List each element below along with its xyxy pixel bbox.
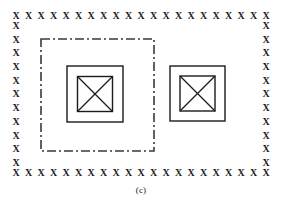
boundary-x-bottom-marker: X <box>12 168 20 178</box>
boundary-x-top-marker: X <box>175 11 183 21</box>
boundary-x-top-marker: X <box>62 11 70 21</box>
boundary-x-bottom-marker: X <box>175 168 183 178</box>
boundary-x-left-marker: X <box>12 35 20 45</box>
boundary-x-top-marker: X <box>25 11 33 21</box>
boundary-x-top-marker: X <box>200 11 208 21</box>
boundary-x-left-marker: X <box>12 62 20 72</box>
boundary-x-top-marker: X <box>250 11 258 21</box>
boundary-x-bottom-marker: X <box>50 168 58 178</box>
boundary-x-bottom-marker: X <box>75 168 83 178</box>
boundary-x-top-marker: X <box>225 11 233 21</box>
right-square-group <box>169 65 226 122</box>
boundary-x-right-marker: X <box>262 89 270 99</box>
boundary-x-bottom-marker: X <box>112 168 120 178</box>
boundary-x-top-marker: X <box>137 11 145 21</box>
boundary-x-bottom-marker: X <box>187 168 195 178</box>
boundary-x-bottom-marker: X <box>125 168 133 178</box>
boundary-x-right-marker: X <box>262 76 270 86</box>
boundary-x-bottom-marker: X <box>250 168 258 178</box>
boundary-x-top-marker: X <box>212 11 220 21</box>
boundary-x-top-marker: X <box>150 11 158 21</box>
boundary-x-top-marker: X <box>37 11 45 21</box>
boundary-x-top-marker: X <box>187 11 195 21</box>
boundary-x-top-marker: X <box>237 11 245 21</box>
boundary-x-bottom-marker: X <box>225 168 233 178</box>
boundary-x-bottom-marker: X <box>200 168 208 178</box>
boundary-x-col-right: XXXXXXXXXXX <box>262 21 270 168</box>
boundary-x-left-marker: X <box>12 144 20 154</box>
boundary-x-left-marker: X <box>12 89 20 99</box>
boundary-x-left-marker: X <box>12 21 20 31</box>
left-square-group <box>66 65 124 123</box>
boundary-x-bottom-marker: X <box>237 168 245 178</box>
boundary-x-left-marker: X <box>12 158 20 168</box>
boundary-x-bottom-marker: X <box>100 168 108 178</box>
boundary-x-row-top: XXXXXXXXXXXXXXXXXXXXX <box>12 11 270 21</box>
boundary-x-bottom-marker: X <box>62 168 70 178</box>
boundary-x-left-marker: X <box>12 48 20 58</box>
boundary-x-right-marker: X <box>262 158 270 168</box>
boundary-x-right-marker: X <box>262 131 270 141</box>
boundary-x-bottom-marker: X <box>87 168 95 178</box>
boundary-x-left-marker: X <box>12 131 20 141</box>
boundary-x-bottom-marker: X <box>37 168 45 178</box>
boundary-x-bottom-marker: X <box>150 168 158 178</box>
boundary-x-right-marker: X <box>262 103 270 113</box>
boundary-x-right-marker: X <box>262 35 270 45</box>
boundary-x-bottom-marker: X <box>212 168 220 178</box>
boundary-x-col-left: XXXXXXXXXXX <box>12 21 20 168</box>
boundary-x-top-marker: X <box>162 11 170 21</box>
boundary-x-bottom-marker: X <box>137 168 145 178</box>
figure-caption: (c) <box>0 185 282 195</box>
left-square-group-svg <box>66 65 124 123</box>
boundary-x-top-marker: X <box>50 11 58 21</box>
boundary-x-right-marker: X <box>262 48 270 58</box>
boundary-x-top-marker: X <box>112 11 120 21</box>
right-square-group-svg <box>169 65 226 122</box>
boundary-x-right-marker: X <box>262 144 270 154</box>
boundary-x-left-marker: X <box>12 76 20 86</box>
boundary-x-top-marker: X <box>87 11 95 21</box>
boundary-x-right-marker: X <box>262 117 270 127</box>
boundary-x-row-bottom: XXXXXXXXXXXXXXXXXXXXX <box>12 168 270 178</box>
boundary-x-bottom-marker: X <box>25 168 33 178</box>
boundary-x-left-marker: X <box>12 117 20 127</box>
boundary-x-left-marker: X <box>12 103 20 113</box>
boundary-x-bottom-marker: X <box>162 168 170 178</box>
boundary-x-top-marker: X <box>100 11 108 21</box>
boundary-x-top-marker: X <box>75 11 83 21</box>
boundary-x-bottom-marker: X <box>262 168 270 178</box>
boundary-x-right-marker: X <box>262 21 270 31</box>
boundary-x-top-marker: X <box>125 11 133 21</box>
figure-panel-c: XXXXXXXXXXXXXXXXXXXXX XXXXXXXXXXXXXXXXXX… <box>0 0 282 205</box>
boundary-x-right-marker: X <box>262 62 270 72</box>
